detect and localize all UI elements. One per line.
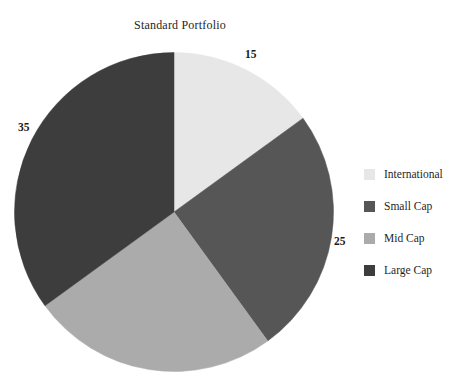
pie-svg bbox=[14, 52, 334, 372]
legend-item-label: Mid Cap bbox=[384, 232, 425, 244]
pie-slices-group bbox=[14, 53, 333, 372]
slice-value-label-large-cap: 35 bbox=[18, 121, 30, 133]
pie-chart-figure: Standard Portfolio 15 25 35 Internationa… bbox=[0, 0, 467, 387]
legend-item-large-cap: Large Cap bbox=[364, 254, 464, 286]
legend-item-label: Small Cap bbox=[384, 200, 432, 212]
legend-item-label: International bbox=[384, 168, 443, 180]
slice-value-label-small-cap: 25 bbox=[334, 235, 346, 247]
legend-item-international: International bbox=[364, 158, 464, 190]
legend-swatch-icon bbox=[364, 169, 375, 180]
legend-swatch-icon bbox=[364, 201, 375, 212]
chart-legend: InternationalSmall CapMid CapLarge Cap bbox=[364, 158, 464, 286]
legend-item-small-cap: Small Cap bbox=[364, 190, 464, 222]
pie-plot-area bbox=[14, 52, 334, 372]
legend-swatch-icon bbox=[364, 233, 375, 244]
legend-item-mid-cap: Mid Cap bbox=[364, 222, 464, 254]
legend-swatch-icon bbox=[364, 265, 375, 276]
chart-title: Standard Portfolio bbox=[0, 18, 360, 33]
slice-value-label-international: 15 bbox=[245, 48, 257, 60]
legend-item-label: Large Cap bbox=[384, 264, 432, 276]
